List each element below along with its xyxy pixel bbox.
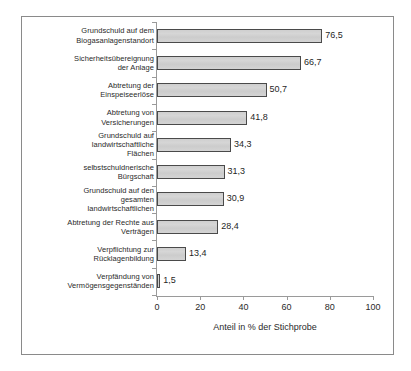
bar: [157, 29, 322, 43]
bar-chart-figure: Grundschuld auf demBiogasanlagenstandort…: [0, 0, 411, 371]
x-axis-tick-label: 40: [223, 302, 263, 312]
y-axis-tick: [152, 159, 156, 160]
x-axis-line: [156, 296, 374, 297]
category-label-line: Sicherheitsübereignung: [26, 54, 154, 63]
category-label-line: Verträgen: [26, 227, 154, 236]
plot-area: Grundschuld auf demBiogasanlagenstandort…: [0, 0, 411, 371]
category-label-line: Abtretung der: [26, 81, 154, 90]
category-label: selbstschuldnerischeBürgschaft: [26, 163, 154, 181]
category-label: Sicherheitsübereignungder Anlage: [26, 54, 154, 72]
category-label-line: Grundschuld auf dem: [26, 26, 154, 35]
category-label: Verpfändung vonVermögensgegenständen: [26, 272, 154, 290]
category-label-line: Bürgschaft: [26, 172, 154, 181]
x-axis-tick: [330, 296, 331, 300]
category-label-line: Verpflichtung zur: [26, 245, 154, 254]
category-label-line: Biogasanlagenstandort: [26, 36, 154, 45]
category-label-line: Abtretung der Rechte aus: [26, 218, 154, 227]
x-axis-tick: [157, 296, 158, 300]
bar-value-label: 34,3: [234, 139, 252, 149]
x-axis-tick-label: 80: [310, 302, 350, 312]
x-axis-tick-label: 60: [267, 302, 307, 312]
category-label-line: selbstschuldnerische: [26, 163, 154, 172]
bar: [157, 83, 267, 97]
category-label-line: Einspeiseerlöse: [26, 90, 154, 99]
category-label: Abtretung vonVersicherungen: [26, 108, 154, 126]
category-label: Abtretung der Rechte ausVerträgen: [26, 218, 154, 236]
category-label-line: Grundschuld auf den: [26, 186, 154, 195]
category-label-line: gesamten: [26, 195, 154, 204]
x-axis-tick-label: 20: [180, 302, 220, 312]
bar-value-label: 30,9: [227, 193, 245, 203]
x-axis-tick: [200, 296, 201, 300]
y-axis-tick: [152, 213, 156, 214]
bar-value-label: 41,8: [250, 112, 268, 122]
category-label-line: Flächen: [26, 149, 154, 158]
y-axis-tick: [152, 131, 156, 132]
bar: [157, 274, 160, 288]
category-label-line: Vermögensgegenständen: [26, 281, 154, 290]
bar: [157, 111, 247, 125]
y-axis-tick: [152, 104, 156, 105]
bar-value-label: 76,5: [325, 30, 343, 40]
x-axis-title: Anteil in % der Stichprobe: [156, 322, 374, 332]
category-label-line: Verpfändung von: [26, 272, 154, 281]
category-label-line: Versicherungen: [26, 118, 154, 127]
bar: [157, 56, 301, 70]
x-axis-tick: [287, 296, 288, 300]
bar-value-label: 31,3: [228, 166, 246, 176]
y-axis-tick: [152, 49, 156, 50]
x-axis-tick: [373, 296, 374, 300]
category-label: Verpflichtung zurRücklagenbildung: [26, 245, 154, 263]
category-label-line: Rücklagenbildung: [26, 254, 154, 263]
bar-value-label: 13,4: [189, 248, 207, 258]
x-axis-tick-label: 0: [137, 302, 177, 312]
bar: [157, 138, 231, 152]
y-axis-tick: [152, 77, 156, 78]
category-label: Grundschuld auflandwirtschaftlicheFläche…: [26, 131, 154, 159]
x-axis-tick-label: 100: [353, 302, 393, 312]
bar: [157, 165, 225, 179]
bar-value-label: 50,7: [270, 84, 288, 94]
category-label-line: der Anlage: [26, 63, 154, 72]
category-label-line: landwirtschaftlichen: [26, 204, 154, 213]
category-label-line: Abtretung von: [26, 108, 154, 117]
x-axis-tick: [243, 296, 244, 300]
y-axis-tick: [152, 240, 156, 241]
bar-value-label: 1,5: [163, 275, 176, 285]
category-label-line: Grundschuld auf: [26, 131, 154, 140]
bar-value-label: 28,4: [221, 221, 239, 231]
y-axis-tick: [152, 186, 156, 187]
bar: [157, 220, 218, 234]
y-axis-tick: [152, 22, 156, 23]
category-label: Grundschuld auf demBiogasanlagenstandort: [26, 26, 154, 44]
y-axis-tick: [152, 268, 156, 269]
category-label-line: landwirtschaftliche: [26, 140, 154, 149]
bar-value-label: 66,7: [304, 57, 322, 67]
bar: [157, 247, 186, 261]
category-axis-labels: Grundschuld auf demBiogasanlagenstandort…: [26, 22, 154, 295]
category-label: Grundschuld auf dengesamtenlandwirtschaf…: [26, 186, 154, 214]
bar: [157, 192, 224, 206]
category-label: Abtretung derEinspeiseerlöse: [26, 81, 154, 99]
